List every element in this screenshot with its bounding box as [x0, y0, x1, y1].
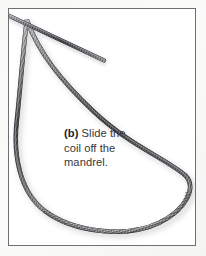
caption-line-1: (b) Slide the — [64, 126, 154, 141]
caption-line-1-text: Slide the — [82, 127, 126, 139]
caption-line-3: mandrel. — [64, 155, 154, 170]
caption-line-2: coil off the — [64, 141, 154, 156]
figure-caption: (b) Slide the coil off the mandrel. — [64, 126, 154, 170]
figure-container: (b) Slide the coil off the mandrel. — [0, 0, 206, 256]
caption-label: (b) — [64, 127, 78, 139]
